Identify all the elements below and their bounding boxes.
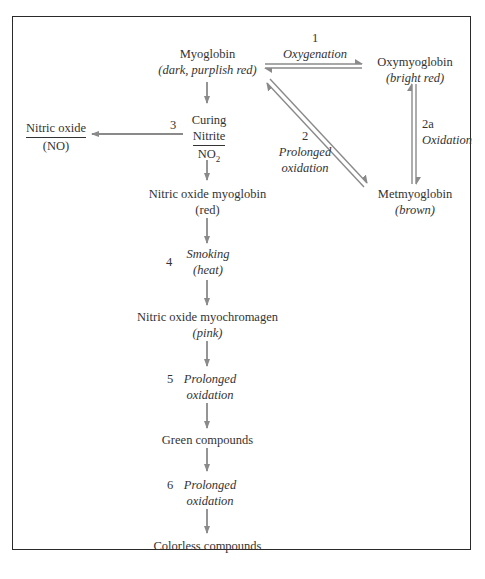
nitric-oxide-formula: (NO) (20, 138, 92, 154)
arrows-layer (0, 0, 485, 579)
step-2-label: 2 Prolonged oxidation (270, 128, 340, 176)
nitric-oxide-myochromagen-name: Nitric oxide myochromagen (115, 309, 300, 325)
step-3-line1: Curing (185, 112, 233, 128)
step-1-number: 1 (275, 30, 355, 46)
step-2-line2: oxidation (270, 160, 340, 176)
step-5-line2: oxidation (180, 387, 240, 403)
step-4-line1: Smoking (180, 246, 236, 262)
step-3-number: 3 (166, 117, 180, 133)
node-nitric-oxide-myoglobin: Nitric oxide myoglobin (red) (130, 186, 285, 218)
step-2-number: 2 (270, 128, 340, 144)
step-4-line2: (heat) (180, 262, 236, 278)
node-green-compounds: Green compounds (140, 432, 275, 448)
node-colorless-compounds: Colorless compounds (130, 538, 285, 554)
myoglobin-color: (dark, purplish red) (145, 62, 270, 78)
step-4-label: Smoking (heat) (180, 246, 236, 278)
step-3-formula: NO2 (185, 146, 233, 167)
metmyoglobin-name: Metmyoglobin (370, 186, 460, 202)
step-4-number: 4 (163, 254, 175, 270)
myoglobin-name: Myoglobin (145, 46, 270, 62)
node-nitric-oxide: Nitric oxide (NO) (20, 120, 92, 154)
metmyoglobin-color: (brown) (370, 202, 460, 218)
nitric-oxide-myoglobin-name: Nitric oxide myoglobin (130, 186, 285, 202)
oxymyoglobin-color: (bright red) (370, 70, 460, 86)
step-2a-number: 2a (422, 116, 472, 132)
node-oxymyoglobin: Oxymyoglobin (bright red) (370, 54, 460, 86)
step-2-line1: Prolonged (270, 144, 340, 160)
nitric-oxide-myochromagen-color: (pink) (115, 325, 300, 341)
step-2a-label: 2a Oxidation (422, 116, 472, 148)
oxymyoglobin-name: Oxymyoglobin (370, 54, 460, 70)
step-5-line1: Prolonged (180, 371, 240, 387)
step-6-label: Prolonged oxidation (180, 477, 240, 509)
step-1-label: 1 Oxygenation (275, 30, 355, 62)
step-3-label: Curing Nitrite NO2 (185, 112, 233, 167)
step-5-label: Prolonged oxidation (180, 371, 240, 403)
step-6-line1: Prolonged (180, 477, 240, 493)
node-metmyoglobin: Metmyoglobin (brown) (370, 186, 460, 218)
nitric-oxide-name: Nitric oxide (26, 120, 86, 138)
step-6-line2: oxidation (180, 493, 240, 509)
step-2a-text: Oxidation (422, 132, 472, 148)
node-nitric-oxide-myochromagen: Nitric oxide myochromagen (pink) (115, 309, 300, 341)
step-6-number: 6 (164, 477, 176, 493)
step-1-text: Oxygenation (275, 46, 355, 62)
nitric-oxide-myoglobin-color: (red) (130, 202, 285, 218)
step-3-line2: Nitrite (193, 128, 226, 146)
node-myoglobin: Myoglobin (dark, purplish red) (145, 46, 270, 78)
step-5-number: 5 (164, 371, 176, 387)
